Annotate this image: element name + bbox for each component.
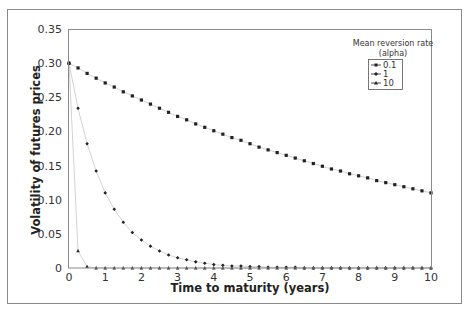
y-tick-label: 0 bbox=[55, 262, 62, 275]
x-tick-label: 0 bbox=[66, 271, 73, 284]
data-point bbox=[257, 146, 260, 149]
data-point bbox=[76, 66, 79, 69]
data-point bbox=[122, 90, 125, 93]
data-point bbox=[248, 142, 251, 145]
volatility-chart: 00.050.100.150.200.250.300.35 0123456789… bbox=[0, 0, 471, 314]
x-axis-label: Time to maturity (years) bbox=[170, 281, 329, 295]
data-point bbox=[294, 156, 297, 159]
data-point bbox=[239, 139, 242, 142]
series-line-10 bbox=[69, 63, 431, 268]
data-point bbox=[76, 106, 80, 110]
data-point bbox=[158, 249, 162, 253]
data-point bbox=[212, 129, 215, 132]
data-point bbox=[357, 174, 360, 177]
data-point bbox=[86, 72, 89, 75]
data-point bbox=[285, 154, 288, 157]
data-point bbox=[276, 151, 279, 154]
y-tick-label: 0.35 bbox=[38, 23, 63, 36]
data-point bbox=[212, 263, 216, 267]
data-point bbox=[176, 115, 179, 118]
x-tick-label: 9 bbox=[391, 271, 398, 284]
data-point bbox=[375, 179, 378, 182]
svg-text:10: 10 bbox=[383, 78, 394, 88]
data-point bbox=[402, 185, 405, 188]
data-point bbox=[312, 162, 315, 165]
data-point bbox=[339, 169, 342, 172]
data-point bbox=[149, 103, 152, 106]
data-point bbox=[330, 167, 333, 170]
x-tick-label: 8 bbox=[355, 271, 362, 284]
data-point bbox=[393, 183, 396, 186]
series-lines bbox=[69, 63, 431, 268]
data-point bbox=[194, 122, 197, 125]
data-point bbox=[420, 189, 423, 192]
data-point bbox=[321, 165, 324, 168]
data-point bbox=[131, 94, 134, 97]
legend-subtitle: (alpha) bbox=[379, 49, 407, 58]
data-point bbox=[221, 133, 224, 136]
data-point bbox=[167, 111, 170, 114]
y-axis-label: Volatility of futures prices bbox=[29, 65, 43, 235]
series-line-1 bbox=[69, 63, 431, 268]
data-point bbox=[94, 169, 98, 173]
x-tick-label: 2 bbox=[138, 271, 145, 284]
data-point bbox=[203, 261, 207, 265]
data-point bbox=[411, 187, 414, 190]
data-point bbox=[95, 77, 98, 80]
square-marker-icon bbox=[375, 64, 378, 67]
data-point bbox=[113, 85, 116, 88]
data-point bbox=[167, 253, 171, 257]
data-point bbox=[104, 81, 107, 84]
data-point bbox=[76, 249, 80, 252]
x-tick-label: 1 bbox=[102, 271, 109, 284]
legend: Mean reversion rate (alpha) 0.1 1 10 bbox=[353, 39, 434, 90]
data-point bbox=[194, 260, 198, 264]
data-point bbox=[366, 176, 369, 179]
data-point bbox=[158, 107, 161, 110]
data-point bbox=[103, 191, 107, 195]
x-tick-label: 10 bbox=[424, 271, 438, 284]
data-point bbox=[230, 136, 233, 139]
data-point bbox=[303, 159, 306, 162]
data-point bbox=[203, 126, 206, 129]
series-markers bbox=[67, 61, 433, 270]
data-point bbox=[140, 98, 143, 101]
data-point bbox=[348, 172, 351, 175]
data-point bbox=[185, 118, 188, 121]
data-point bbox=[384, 181, 387, 184]
data-point bbox=[176, 256, 180, 260]
data-point bbox=[267, 148, 270, 151]
data-point bbox=[185, 258, 189, 262]
data-point bbox=[85, 142, 89, 146]
legend-title: Mean reversion rate bbox=[353, 39, 434, 48]
